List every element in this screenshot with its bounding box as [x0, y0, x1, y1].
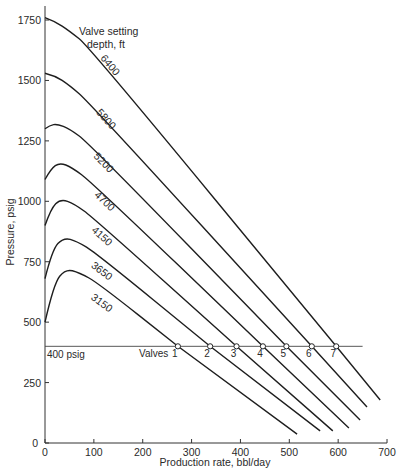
curve-depth-6400 — [45, 18, 380, 400]
y-tick-label: 500 — [23, 316, 41, 328]
x-tick-label: 700 — [378, 446, 396, 458]
x-tick-label: 0 — [42, 446, 48, 458]
x-tick-label: 200 — [134, 446, 152, 458]
valve-label-2: 2 — [204, 348, 210, 359]
valve-label-6: 6 — [306, 348, 312, 359]
curve-depth-5200 — [45, 124, 360, 420]
curve-depth-4150 — [45, 201, 333, 431]
y-tick-label: 1250 — [18, 135, 42, 147]
valve-label-5: 5 — [281, 348, 287, 359]
curve-depth-4700 — [45, 164, 349, 428]
x-tick-label: 500 — [281, 446, 299, 458]
curve-label-3650: 3650 — [89, 259, 115, 283]
curve-label-5800: 5800 — [94, 106, 119, 131]
x-axis-label: Production rate, bbl/day — [160, 456, 272, 468]
y-tick-label: 1750 — [18, 14, 42, 26]
x-tick-label: 600 — [329, 446, 347, 458]
y-tick-label: 0 — [32, 437, 38, 449]
legend-title-line2: depth, ft — [87, 38, 125, 50]
curve-label-5200: 5200 — [92, 150, 117, 175]
curves: 6400580052004700415036503150 — [45, 18, 380, 435]
valve-depth-pressure-chart: 0100200300400500600700025050075010001250… — [0, 0, 397, 471]
reference-line-label: 400 psig — [47, 349, 85, 360]
curve-label-4700: 4700 — [92, 188, 117, 213]
curve-label-4150: 4150 — [90, 224, 116, 249]
valve-label-4: 4 — [257, 348, 263, 359]
y-tick-label: 250 — [23, 377, 41, 389]
y-tick-label: 750 — [23, 256, 41, 268]
legend-title-line1: Valve setting — [79, 25, 138, 37]
curve-depth-3650 — [45, 239, 320, 431]
valve-label-3: 3 — [231, 348, 237, 359]
valve-label-7: 7 — [330, 348, 336, 359]
y-tick-label: 1500 — [18, 74, 42, 86]
valves-label: Valves — [139, 348, 168, 359]
x-tick-label: 100 — [85, 446, 103, 458]
valve-label-1: 1 — [172, 348, 178, 359]
y-tick-label: 1000 — [18, 195, 42, 207]
y-axis-label: Pressure, psig — [4, 198, 16, 265]
